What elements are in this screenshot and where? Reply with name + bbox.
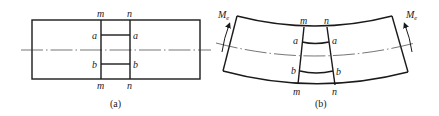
moment-arrow-right-icon — [405, 25, 412, 52]
moment-arrow-left-icon — [222, 25, 229, 52]
moment-label-right: Me — [405, 9, 417, 21]
panel-a-undeformed-beam: m n m n a a b b (a) — [21, 8, 211, 110]
label-m-top: m — [97, 8, 104, 19]
fiber-bb-curve — [300, 71, 333, 73]
fiber-aa-curve — [302, 42, 329, 44]
caption-b: (b) — [315, 98, 327, 110]
label-a-right: a — [332, 35, 337, 46]
label-b-right: b — [336, 66, 341, 77]
moment-label-left: Me — [217, 9, 229, 21]
beam-left-end — [223, 16, 237, 71]
beam-bending-diagram: m n m n a a b b (a) m n m n a a b b — [0, 0, 439, 116]
caption-a: (a) — [110, 98, 121, 110]
label-a-left: a — [92, 30, 97, 41]
beam-top-edge — [237, 16, 392, 26]
label-m-top: m — [300, 15, 307, 26]
neutral-axis-curve — [216, 43, 415, 56]
beam-outline — [32, 20, 200, 79]
label-a-left: a — [293, 35, 298, 46]
section-m-line — [298, 27, 304, 84]
label-b-right: b — [133, 59, 138, 70]
panel-b-bent-beam: m n m n a a b b (b) Me Me — [216, 9, 417, 110]
label-b-left: b — [291, 65, 296, 76]
label-m-bottom: m — [97, 80, 104, 91]
label-a-right: a — [133, 30, 138, 41]
label-n-bottom: n — [332, 86, 337, 97]
label-n-top: n — [127, 8, 132, 19]
beam-right-end — [392, 16, 408, 72]
label-b-left: b — [92, 59, 97, 70]
label-n-top: n — [324, 15, 329, 26]
label-m-bottom: m — [293, 86, 300, 97]
label-n-bottom: n — [127, 80, 132, 91]
